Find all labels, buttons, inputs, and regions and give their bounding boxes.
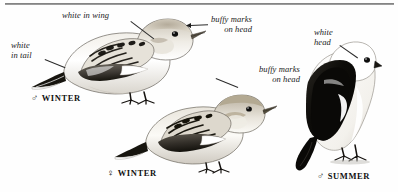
illustration-plate: white in wing white in tail buffy marks … — [0, 0, 398, 192]
caption-male-winter: ♂WINTER — [31, 93, 81, 103]
caption-male-summer: ♂SUMMER — [317, 171, 370, 181]
annotation-buffy-female-line1: buffy marks — [259, 64, 300, 74]
annotation-buffy-male-line1: buffy marks — [211, 14, 252, 24]
caption-male-summer-label: SUMMER — [328, 171, 370, 181]
annotation-white-in-tail-line1: white — [11, 40, 30, 50]
annotation-buffy-marks-head-male: buffy marks on head — [211, 14, 252, 34]
annotation-buffy-male-line2: on head — [224, 24, 252, 34]
annotation-white-in-tail: white in tail — [11, 40, 32, 60]
annotation-buffy-marks-head-female: buffy marks on head — [234, 64, 300, 84]
annotation-white-head-line2: head — [314, 37, 331, 47]
annotation-white-in-tail-line2: in tail — [11, 50, 32, 60]
caption-female-winter-label: WINTER — [118, 168, 157, 178]
caption-male-winter-label: WINTER — [42, 93, 81, 103]
annotation-buffy-female-line2: on head — [272, 74, 300, 84]
male-symbol-icon-2: ♂ — [317, 171, 325, 181]
top-divider-rule — [5, 3, 394, 5]
bird-male-summer — [262, 38, 382, 173]
annotation-white-head-line1: white — [314, 27, 333, 37]
male-symbol-icon: ♂ — [31, 93, 39, 103]
caption-female-winter: ♀WINTER — [107, 168, 157, 178]
annotation-white-in-wing: white in wing — [62, 10, 109, 20]
female-symbol-icon: ♀ — [107, 168, 115, 178]
annotation-white-in-wing-line1: white in wing — [62, 10, 109, 20]
annotation-white-head: white head — [314, 27, 333, 47]
bird-female-winter — [112, 84, 277, 174]
